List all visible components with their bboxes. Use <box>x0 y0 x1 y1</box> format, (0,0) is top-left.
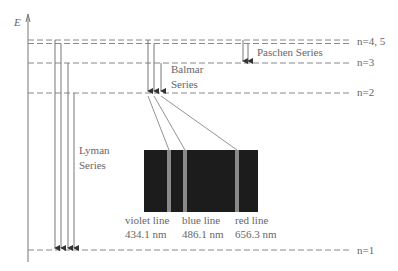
blue-line-wavelength: 486.1 nm <box>182 228 224 241</box>
spectrum-red-line <box>235 150 239 212</box>
level-label-n1: n=1 <box>357 244 374 257</box>
violet-line-wavelength: 434.1 nm <box>125 228 167 241</box>
lyman-series-label-2: Series <box>79 159 106 172</box>
level-label-n2: n=2 <box>357 86 374 99</box>
spectrum-violet-line <box>167 150 171 212</box>
violet-line-label: violet line <box>125 214 169 227</box>
spectrum-blue-line <box>183 150 187 212</box>
lyman-series-label-1: Lyman <box>79 144 110 157</box>
red-line-wavelength: 656.3 nm <box>235 228 277 241</box>
level-label-n3: n=3 <box>357 56 374 69</box>
blue-line-label: blue line <box>182 214 220 227</box>
balmer-series-label-1: Balmar <box>171 63 203 76</box>
level-label-n45: n=4, 5 <box>357 35 385 48</box>
balmer-arrows <box>148 40 161 91</box>
balmer-series-label-2: Series <box>171 78 198 91</box>
hydrogen-spectrum <box>144 150 258 212</box>
spectrum-connectors <box>148 96 237 150</box>
energy-axis <box>26 14 30 262</box>
red-line-label: red line <box>235 214 268 227</box>
lyman-arrows <box>55 40 74 248</box>
paschen-series-label: Paschen Series <box>257 46 323 59</box>
energy-axis-label: E <box>14 16 21 29</box>
